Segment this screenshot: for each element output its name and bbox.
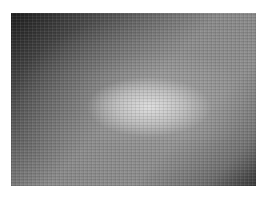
grayscale-photo xyxy=(11,13,256,186)
